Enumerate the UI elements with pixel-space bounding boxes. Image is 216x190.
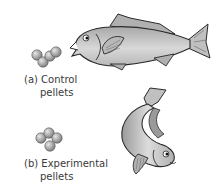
experimental-pellets-label: (b) Experimental pellets <box>24 157 108 183</box>
experimental-pellets-icon <box>34 127 68 155</box>
fish-b-icon <box>108 88 180 178</box>
label-line-1: (b) Experimental <box>24 157 108 170</box>
control-pellets-label: (a) Control pellets <box>24 73 77 99</box>
fish-a-icon <box>70 12 212 70</box>
label-line-2: pellets <box>24 170 108 183</box>
label-line-2: pellets <box>24 86 77 99</box>
control-pellets-icon <box>30 46 70 70</box>
label-line-1: (a) Control <box>24 73 77 86</box>
